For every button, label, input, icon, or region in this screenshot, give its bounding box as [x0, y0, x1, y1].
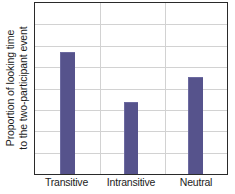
x-tick-label-transitive: Transitive — [45, 176, 88, 188]
x-tick-label-neutral: Neutral — [180, 176, 212, 188]
bar-chart-figure: Proportion of looking time to the two-pa… — [0, 0, 235, 194]
bar-transitive — [60, 52, 75, 174]
gridline-horizontal-2 — [35, 46, 227, 47]
x-tick-label-intransitive: Intransitive — [107, 176, 155, 188]
y-axis-label-text: Proportion of looking time to the two-pa… — [4, 26, 30, 149]
bar-neutral — [188, 77, 203, 174]
gridline-vertical-2 — [165, 3, 166, 174]
bar-intransitive — [124, 102, 139, 174]
y-axis-label-line-1: Proportion of looking time — [4, 26, 17, 149]
gridline-horizontal-1 — [35, 24, 227, 25]
y-axis-label: Proportion of looking time to the two-pa… — [0, 0, 34, 176]
y-axis-label-line-2: to the two-participant event — [17, 26, 30, 149]
x-axis-tick-labels: TransitiveIntransitiveNeutral — [34, 176, 228, 194]
plot-area — [34, 2, 228, 175]
gridline-vertical-1 — [100, 3, 101, 174]
